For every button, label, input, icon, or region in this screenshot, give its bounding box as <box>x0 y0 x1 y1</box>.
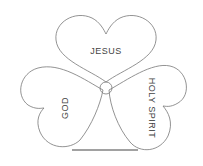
shamrock-diagram: JESUS GOD HOLY SPIRIT <box>0 0 203 166</box>
label-jesus: JESUS <box>90 46 122 56</box>
label-god: GOD <box>60 97 70 119</box>
label-holy-spirit: HOLY SPIRIT <box>147 78 157 139</box>
center-circle <box>100 82 112 94</box>
